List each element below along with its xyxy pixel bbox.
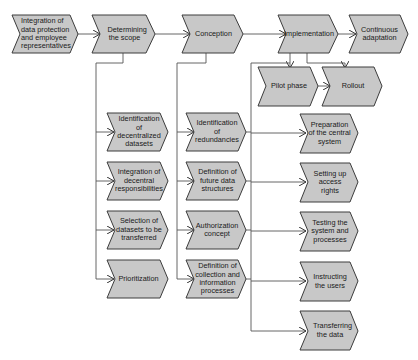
- node-label: Pilot phase: [271, 82, 307, 90]
- node-setting-up-access-rights: Setting up access rights: [300, 163, 358, 202]
- node-identification-decentralized-datasets: Identification of decentralized datasets: [107, 113, 168, 151]
- node-identification-redundancies: Identification of redundancies: [186, 113, 246, 151]
- node-pilot-phase: Pilot phase: [258, 67, 318, 106]
- node-label: Authorization concept: [196, 222, 239, 239]
- node-authorization-concept: Authorization concept: [186, 211, 246, 249]
- node-selection-datasets: Selection of datasets to be transferred: [107, 211, 168, 249]
- node-preparation-central-system: Preparation of the central system: [300, 114, 358, 153]
- node-label: Continuous adaptation: [360, 26, 399, 43]
- node-continuous-adaptation: Continuous adaptation: [349, 15, 408, 53]
- node-label: Transferring the data: [313, 322, 347, 339]
- node-prioritization: Prioritization: [107, 260, 168, 298]
- node-label: Preparation of the central system: [308, 121, 351, 146]
- node-label: Integration of data protection and emplo…: [21, 17, 72, 51]
- node-transferring-data: Transferring the data: [300, 311, 358, 350]
- node-label: Instructing the users: [313, 273, 347, 290]
- node-label: Setting up access rights: [311, 170, 349, 195]
- node-rollout: Rollout: [322, 67, 382, 106]
- node-label: Implementation: [284, 30, 334, 38]
- node-label: Identification of redundancies: [195, 119, 239, 144]
- node-determining-scope: Determining the scope: [92, 15, 155, 53]
- node-conception: Conception: [182, 15, 243, 53]
- node-label: Determining the scope: [108, 26, 142, 43]
- node-implementation: Implementation: [278, 15, 338, 53]
- arrow-n4-rollout: [307, 53, 345, 68]
- node-label: Rollout: [342, 82, 365, 90]
- node-label: Integration of decentral responsibilitie…: [115, 168, 163, 193]
- node-integration-data-protection: Integration of data protection and emplo…: [12, 15, 78, 53]
- node-testing-system: Testing the system and processes: [300, 212, 358, 251]
- node-label: Definition of collection and information…: [195, 262, 240, 296]
- node-label: Definition of future data structures: [195, 168, 240, 193]
- node-definition-data-structures: Definition of future data structures: [186, 162, 246, 200]
- node-integration-decentral-responsibilities: Integration of decentral responsibilitie…: [107, 162, 168, 200]
- node-label: Identification of decentralized datasets: [116, 115, 162, 149]
- node-definition-collection-processes: Definition of collection and information…: [186, 260, 246, 298]
- node-label: Testing the system and processes: [311, 219, 349, 244]
- node-label: Selection of datasets to be transferred: [116, 217, 162, 242]
- node-label: Conception: [195, 30, 232, 38]
- node-label: Prioritization: [118, 275, 158, 283]
- node-instructing-users: Instructing the users: [300, 262, 358, 301]
